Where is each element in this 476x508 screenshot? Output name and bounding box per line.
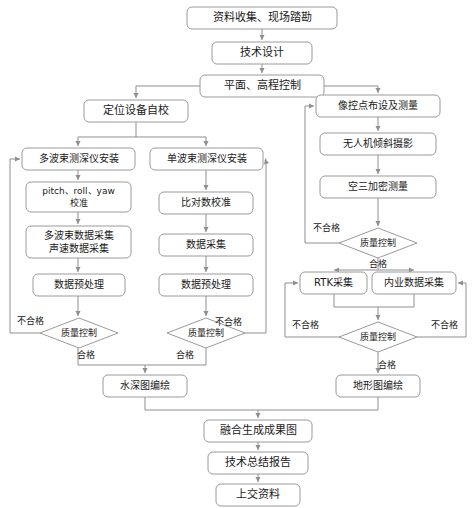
flow-edge [145,397,258,418]
flow-node[interactable]: RTK采集 [300,272,367,294]
flow-edge [378,294,414,307]
node-label: 质量控制 [360,331,396,342]
edge-label: 不合格 [431,319,458,330]
edge-label: 不合格 [292,319,319,330]
node-label: 质量控制 [61,327,97,338]
flow-arrowhead [75,311,80,316]
flow-node[interactable]: 数据预处理 [33,274,125,296]
node-label: 无人机倾斜摄影 [343,137,413,149]
node-label: 技术设计 [240,46,284,59]
flow-node[interactable]: 质量控制 [40,318,118,348]
nodes-layer: 资料收集、现场踏勘技术设计平面、高程控制定位设备自校多波束测深仪安装pitch、… [22,7,456,506]
flow-edge [136,86,200,98]
flow-node[interactable]: 空三加密测量 [320,176,436,198]
flow-arrowhead [259,68,264,73]
flow-arrowhead [309,103,314,108]
flow-node[interactable]: 单波束测深仪安装 [150,148,263,170]
flow-arrowhead [203,185,208,190]
flow-arrowhead [259,35,264,40]
flow-arrowhead [375,221,380,226]
flow-arrowhead [375,169,380,174]
flow-arrowhead [142,368,147,373]
flow-node[interactable]: 内业数据采集 [372,272,456,294]
flow-arrowhead [255,445,260,450]
flow-arrowhead [75,175,80,180]
flow-node[interactable]: 比对数校准 [159,192,253,214]
flow-arrowhead [133,93,138,98]
node-label: 像控点布设及测量 [338,99,418,111]
node-label: 质量控制 [188,327,224,338]
node-label: RTK采集 [314,276,353,288]
flow-arrowhead [203,141,208,146]
flow-arrowhead [203,311,208,316]
edge-label: 不合格 [215,316,242,327]
edge-label: 不合格 [313,222,340,233]
node-label: 平面、高程控制 [224,78,301,92]
flow-arrowhead [203,227,208,232]
flow-node[interactable]: 无人机倾斜摄影 [320,133,436,155]
flow-arrowhead [255,413,260,418]
flow-node[interactable]: 平面、高程控制 [200,75,324,97]
edge-label: 合格 [369,258,387,269]
flow-arrowhead [15,156,20,161]
node-label: 技术总结报告 [225,455,291,469]
flow-edge [334,294,378,320]
flow-edge [136,137,206,146]
edge-label: 不合格 [17,315,44,326]
edge-label: 合格 [378,359,396,370]
flow-node[interactable]: 数据预处理 [159,274,253,296]
flowchart-canvas: 资料收集、现场踏勘技术设计平面、高程控制定位设备自校多波束测深仪安装pitch、… [0,0,476,508]
flow-node[interactable]: 像控点布设及测量 [316,95,440,117]
flow-node[interactable]: 上交资料 [216,484,300,506]
flowchart-container: 资料收集、现场踏勘技术设计平面、高程控制定位设备自校多波束测深仪安装pitch、… [0,0,476,508]
node-label: 水深图编绘 [120,379,170,391]
flow-edge [324,86,378,93]
flow-node[interactable]: 地形图编绘 [336,375,420,397]
flow-arrowhead [375,315,380,320]
flow-node[interactable]: 技术设计 [212,42,312,64]
flow-node[interactable]: 质量控制 [339,322,417,352]
edge-label: 合格 [176,349,194,360]
flow-arrowhead [375,126,380,131]
node-label: 定位设备自校 [103,103,169,117]
edge-label: 合格 [77,349,95,360]
node-label: 资料收集、现场踏勘 [213,10,312,24]
node-label: 地形图编绘 [353,379,403,391]
flow-node[interactable]: 多波束数据采集声速数据采集 [26,226,131,258]
flow-node[interactable]: 数据采集 [159,234,253,256]
node-label: 数据采集 [186,238,226,250]
node-label: 数据预处理 [181,278,231,290]
flow-node[interactable]: pitch、roll、yaw校准 [26,182,131,212]
node-label: 数据预处理 [54,278,104,290]
flow-arrowhead [203,267,208,272]
flow-edge [258,397,378,410]
flow-arrowhead [375,88,380,93]
flow-edge [78,122,136,146]
node-label: 单波束测深仪安装 [167,152,247,164]
flow-arrowhead [75,219,80,224]
flow-node[interactable]: 融合生成成果图 [204,420,312,442]
node-label: 比对数校准 [181,196,231,208]
flow-arrowhead [75,267,80,272]
flow-node[interactable]: 定位设备自校 [84,100,188,122]
flow-node[interactable]: 水深图编绘 [103,375,187,397]
flow-arrowhead [458,280,463,285]
node-label: 质量控制 [360,237,396,248]
flow-node[interactable]: 多波束测深仪安装 [22,148,135,170]
node-label: 多波束测深仪安装 [39,152,119,164]
flow-arrowhead [293,280,298,285]
flow-arrowhead [255,477,260,482]
flow-arrowhead [75,141,80,146]
flow-node[interactable]: 质量控制 [339,228,417,258]
node-label: 空三加密测量 [348,180,408,192]
flow-node[interactable]: 资料收集、现场踏勘 [187,7,337,29]
node-label: 上交资料 [236,487,280,501]
flow-node[interactable]: 技术总结报告 [208,452,308,474]
node-label: 融合生成成果图 [220,423,297,437]
node-label: 内业数据采集 [384,276,444,288]
